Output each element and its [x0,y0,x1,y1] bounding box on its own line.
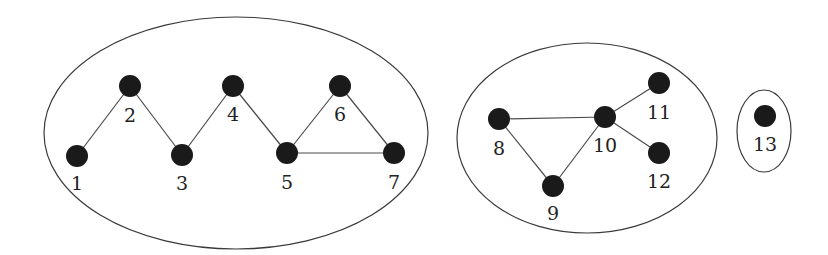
edge-1-2 [77,86,130,156]
component-ellipses [44,17,791,249]
node-12 [648,142,670,164]
node-9 [542,175,564,197]
edge-3-4 [182,86,233,155]
edge-2-3 [130,86,182,155]
node-label-5: 5 [281,171,293,193]
node-8 [488,108,510,130]
component-ellipse-3 [737,90,791,172]
node-6 [329,75,351,97]
node-label-3: 3 [176,172,188,194]
node-label-11: 11 [647,101,671,123]
edge-5-6 [287,86,340,153]
edge-8-10 [499,117,605,119]
node-label-7: 7 [388,171,400,193]
node-11 [648,72,670,94]
edge-4-5 [233,86,287,153]
node-3 [171,144,193,166]
node-label-4: 4 [227,103,239,125]
graph-diagram: 12345678910111213 [0,0,828,255]
node-2 [119,75,141,97]
node-label-13: 13 [753,133,777,155]
node-label-8: 8 [493,137,505,159]
component-ellipse-1 [44,17,428,249]
edge-6-7 [340,86,394,153]
node-5 [276,142,298,164]
node-label-10: 10 [593,134,617,156]
node-label-1: 1 [71,172,83,194]
node-label-6: 6 [334,103,346,125]
node-13 [754,105,776,127]
node-label-9: 9 [547,202,559,224]
node-label-2: 2 [124,104,136,126]
node-1 [66,145,88,167]
node-7 [383,142,405,164]
node-label-12: 12 [647,170,671,192]
node-4 [222,75,244,97]
graph-edges [77,83,659,186]
edge-8-9 [499,119,553,186]
node-10 [594,106,616,128]
